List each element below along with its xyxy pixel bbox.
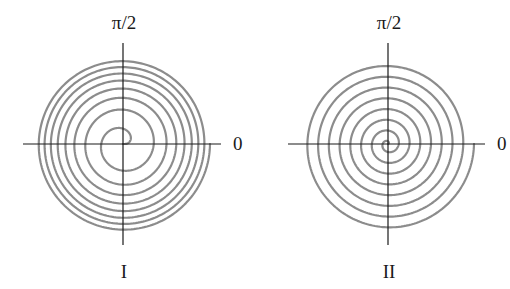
polar-spirals-figure: π/2 0 I π/2 0 II — [0, 0, 510, 289]
angle-label-pi-over-2-ii: π/2 — [377, 12, 401, 33]
spiral-curve-i — [39, 61, 210, 229]
angle-label-zero-i: 0 — [233, 133, 243, 154]
panel-label-ii: II — [383, 261, 396, 282]
angle-label-pi-over-2-i: π/2 — [112, 12, 136, 33]
spiral-curve-ii — [307, 66, 474, 227]
angle-label-zero-ii: 0 — [497, 133, 507, 154]
panel-i: π/2 0 I — [23, 12, 243, 282]
panel-label-i: I — [121, 261, 127, 282]
panel-ii: π/2 0 II — [288, 12, 507, 282]
